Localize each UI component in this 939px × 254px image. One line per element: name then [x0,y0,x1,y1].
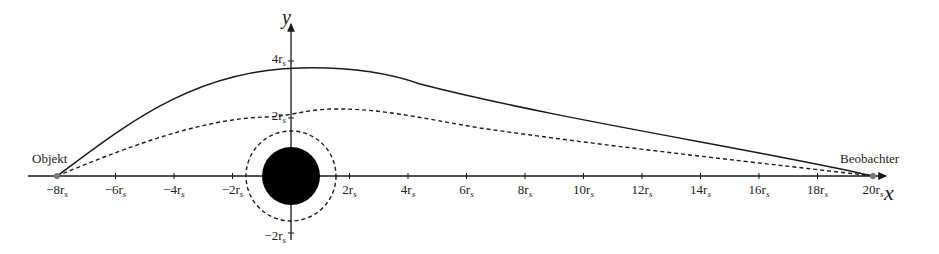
y-axis-label: y [280,6,291,29]
x-tick-labels: −8rs −6rs −4rs −2rs 2rs 4rs 6rs 8rs 10rs… [46,182,884,199]
svg-text:−2rs: −2rs [222,182,244,199]
diagram-canvas: −8rs −6rs −4rs −2rs 2rs 4rs 6rs 8rs 10rs… [0,0,939,254]
svg-text:14rs: 14rs [690,182,711,199]
svg-text:−6rs: −6rs [105,182,127,199]
object-label: Objekt [32,151,68,166]
svg-text:−8rs: −8rs [46,182,68,199]
y-tick-labels: 4rs 2rs −2rs [264,51,286,245]
svg-text:12rs: 12rs [632,182,653,199]
object-point [54,173,60,179]
svg-text:16rs: 16rs [749,182,770,199]
svg-text:18rs: 18rs [807,182,828,199]
svg-text:8rs: 8rs [518,182,533,199]
svg-text:10rs: 10rs [573,182,594,199]
x-axis-label: x [883,180,894,205]
light-path-solid [57,68,873,176]
svg-text:20rs: 20rs [863,182,884,199]
svg-text:−4rs: −4rs [163,182,185,199]
observer-point [870,173,876,179]
light-path-dashed [57,109,873,176]
light-deflection-diagram: −8rs −6rs −4rs −2rs 2rs 4rs 6rs 8rs 10rs… [0,0,939,254]
svg-text:2rs: 2rs [342,182,357,199]
svg-text:6rs: 6rs [459,182,474,199]
svg-text:−2rs: −2rs [264,228,286,245]
black-hole [262,147,320,205]
svg-text:4rs: 4rs [401,182,416,199]
observer-label: Beobachter [840,151,900,166]
svg-text:4rs: 4rs [272,51,287,68]
